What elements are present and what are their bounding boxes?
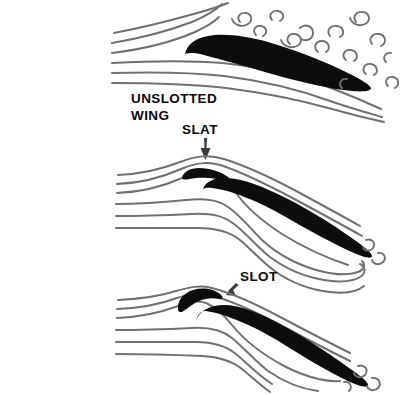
label-slat: SLAT [182, 122, 218, 137]
panel-slat: SLAT [116, 122, 385, 293]
trailing-curl [363, 240, 374, 251]
label-unslotted-wing-line1: UNSLOTTED [131, 91, 217, 106]
turbulence-curl [350, 12, 369, 25]
diagram-canvas: UNSLOTTED WING SLAT [0, 0, 413, 395]
streamline [116, 342, 272, 384]
turbulence-curl [232, 13, 251, 26]
turbulence-curl [386, 77, 398, 88]
turbulence-curl [364, 64, 377, 75]
panel-unslotted-wing: UNSLOTTED WING [112, 3, 398, 123]
turbulence-curl [270, 11, 283, 21]
turbulence-curl [370, 34, 385, 46]
trailing-curl [372, 253, 385, 264]
turbulence-curl [315, 41, 329, 52]
streamline-group-upper-panel3 [117, 287, 350, 382]
label-unslotted-wing-line2: WING [131, 108, 169, 123]
turbulence-curl [281, 34, 301, 47]
label-slot: SLOT [240, 269, 278, 284]
turbulence-curl [300, 26, 313, 41]
turbulence-curl [384, 53, 391, 62]
arrow-head [201, 148, 211, 160]
trailing-curl [344, 382, 351, 391]
turbulence-curl [328, 26, 343, 37]
turbulence-curl [344, 50, 357, 61]
trailing-curl [354, 366, 367, 378]
turbulence-curl [254, 26, 266, 36]
panel-slot: SLOT [116, 269, 380, 392]
streamline [116, 354, 270, 392]
streamline-group-upper-panel2 [117, 156, 362, 265]
airfoil-slat-slot-diagram: UNSLOTTED WING SLAT [0, 0, 413, 395]
trailing-curl [367, 378, 380, 390]
